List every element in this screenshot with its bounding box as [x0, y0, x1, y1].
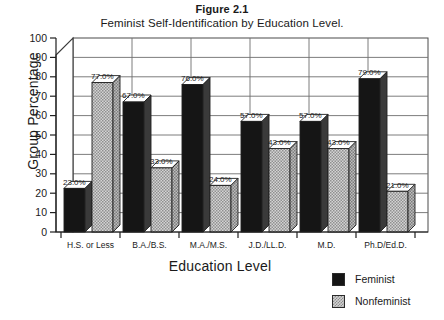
legend-label-feminist: Feminist [355, 273, 395, 285]
x-tick-label: Ph.D/Ed.D. [364, 240, 407, 250]
x-tick-labels: H.S. or Less B.A./B.S. M.A./M.S. J.D./LL… [67, 240, 407, 250]
bar-feminist-ma-ms [182, 78, 210, 232]
x-axis [56, 232, 428, 238]
x-tick-label: M.D. [318, 240, 336, 250]
bar-feminist-ba-bs [123, 95, 151, 232]
bar-value-label: 21.0% [386, 181, 409, 190]
bar-value-label: 33.0% [150, 157, 173, 166]
bar-nonfeminist-md [328, 142, 356, 232]
y-axis [50, 38, 56, 232]
chart-legend: Feminist Nonfeminist [332, 268, 410, 312]
bar-value-label: 57.0% [240, 111, 263, 120]
legend-item-nonfeminist: Nonfeminist [332, 290, 410, 312]
y-tick-label: 10 [35, 206, 47, 218]
bar-feminist-jd-lld [241, 114, 269, 232]
legend-label-nonfeminist: Nonfeminist [355, 295, 410, 307]
bar-value-label: 67.0% [122, 91, 145, 100]
bar-value-label: 23.0% [63, 178, 86, 187]
bar-value-label: 43.0% [268, 138, 291, 147]
bar-nonfeminist-ba-bs [151, 161, 179, 232]
bar-feminist-phd-edd [359, 72, 387, 232]
x-tick-label: J.D./LL.D. [249, 240, 287, 250]
bar-nonfeminist-jd-lld [269, 142, 297, 232]
bar-value-label: 79.0% [358, 68, 381, 77]
bar-nonfeminist-ma-ms [210, 178, 238, 232]
bar-value-label: 77.0% [91, 72, 114, 81]
y-axis-title: Group Percentage [25, 26, 41, 196]
bar-feminist-md [300, 114, 328, 232]
x-tick-label: H.S. or Less [67, 240, 114, 250]
legend-swatch-nonfeminist-icon [332, 295, 345, 308]
legend-swatch-feminist-icon [332, 273, 345, 286]
bar-nonfeminist-phd-edd [387, 184, 415, 232]
bar-nonfeminist-hs-or-less [92, 76, 120, 232]
y-tick-label: 0 [41, 226, 47, 238]
bar-feminist-hs-or-less [64, 181, 92, 232]
legend-item-feminist: Feminist [332, 268, 410, 290]
bar-value-label: 43.0% [327, 138, 350, 147]
x-tick-label: M.A./M.S. [190, 240, 227, 250]
bar-value-label: 76.0% [181, 74, 204, 83]
bar-value-label: 24.0% [209, 175, 232, 184]
x-tick-label: B.A./B.S. [132, 240, 167, 250]
bar-value-label: 57.0% [299, 111, 322, 120]
